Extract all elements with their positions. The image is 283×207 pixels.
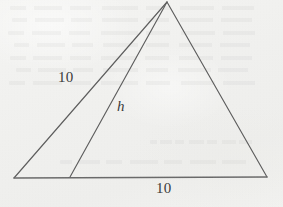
triangle-diagram — [0, 0, 283, 207]
label-height-h: h — [117, 99, 125, 114]
label-base-length: 10 — [156, 181, 171, 196]
triangle-left-side — [14, 2, 167, 178]
triangle-base — [14, 177, 267, 178]
figure-canvas: 10 h 10 — [0, 0, 283, 207]
label-left-side-length: 10 — [58, 70, 73, 85]
triangle-right-side — [167, 2, 267, 177]
triangle-height-cevian — [70, 2, 167, 177]
